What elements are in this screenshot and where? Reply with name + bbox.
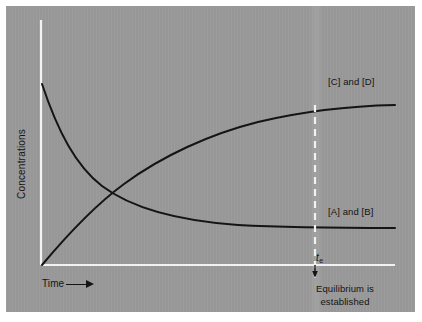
- right-arrow-icon: [66, 280, 96, 289]
- y-axis-label-text: Concentrations: [16, 129, 27, 199]
- equilibrium-concentration-figure: Concentrations Time [C] and [D] [A] and …: [0, 0, 422, 322]
- plot-area: [6, 6, 415, 312]
- x-axis-label: Time: [42, 278, 96, 290]
- equilibrium-annotation-line2: established: [286, 295, 404, 308]
- equilibrium-arrowhead-icon: [312, 271, 318, 278]
- equilibrium-annotation-line1: Equilibrium is: [286, 282, 404, 295]
- curve-products-cd: [42, 105, 395, 265]
- x-axis-label-text: Time: [42, 278, 64, 290]
- equilibrium-time-label: te: [316, 252, 323, 265]
- equilibrium-annotation: Equilibrium is established: [286, 282, 404, 308]
- series-label-products: [C] and [D]: [328, 76, 375, 88]
- y-axis-label: Concentrations: [14, 104, 28, 224]
- equilibrium-time-subscript: e: [319, 257, 323, 264]
- chart-panel: Concentrations Time [C] and [D] [A] and …: [6, 6, 415, 312]
- series-label-reactants: [A] and [B]: [328, 206, 373, 218]
